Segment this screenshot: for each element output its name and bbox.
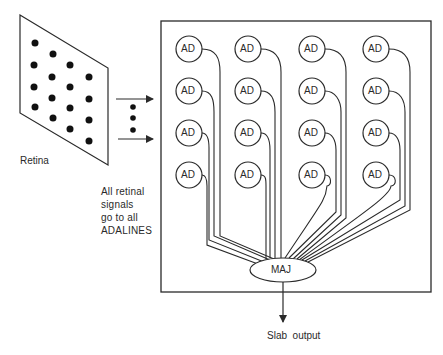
- adaline-node: AD: [304, 42, 318, 56]
- adaline-node: AD: [240, 126, 254, 140]
- retina-plane: [20, 15, 108, 165]
- adaline-node: AD: [368, 126, 382, 140]
- retina-label: Retina: [20, 154, 49, 168]
- majority-label: MAJ: [271, 263, 291, 277]
- note-line: signals: [101, 198, 152, 211]
- adaline-grid: [176, 36, 389, 188]
- adaline-node: AD: [181, 42, 195, 56]
- adaline-node: AD: [181, 126, 195, 140]
- adaline-node: AD: [240, 168, 254, 182]
- adaline-node: AD: [368, 84, 382, 98]
- ellipsis-dots: [130, 104, 136, 133]
- retina-dots: [31, 40, 93, 145]
- adaline-node: AD: [368, 168, 382, 182]
- adaline-node: AD: [304, 168, 318, 182]
- adaline-node: AD: [240, 42, 254, 56]
- adaline-node: AD: [368, 42, 382, 56]
- adaline-node: AD: [181, 168, 195, 182]
- adaline-node: AD: [240, 84, 254, 98]
- slab-output-label: Slab output: [267, 329, 320, 343]
- adaline-node: AD: [181, 84, 195, 98]
- adaline-node: AD: [304, 84, 318, 98]
- note-line: All retinal: [101, 185, 152, 198]
- note-line: go to all: [101, 211, 152, 224]
- adaline-node: AD: [304, 126, 318, 140]
- note-line: ADALINES: [101, 224, 152, 237]
- retinal-signals-note: All retinal signals go to all ADALINES: [101, 185, 152, 237]
